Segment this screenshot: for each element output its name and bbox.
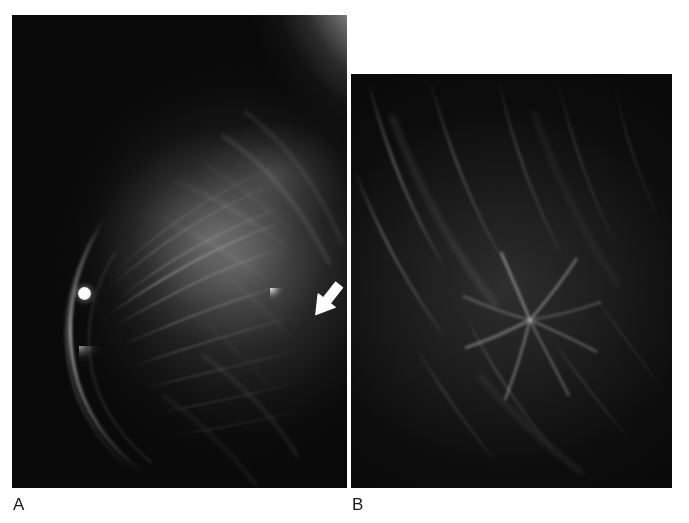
panel-b-description: Magnified spot-compression view of the l… [0, 0, 1, 1]
mammogram-panel-a [12, 15, 347, 488]
magnified-tissue-layer [351, 74, 672, 488]
film-grain-a [12, 15, 347, 488]
mammogram-panel-b [351, 74, 672, 488]
glandular-density-layer [12, 15, 347, 488]
fibroglandular-strands [12, 15, 347, 488]
secondary-density-focus [79, 346, 125, 380]
figure-root: A B Full-field mammogram of the breast, … [0, 0, 689, 523]
breast-parenchyma-layer [12, 15, 347, 488]
skin-line-contour [12, 15, 347, 488]
panel-a-description: Full-field mammogram of the breast, obli… [0, 0, 1, 1]
panel-label-b: B [352, 496, 364, 513]
pectoral-muscle-layer [12, 15, 347, 488]
arrow-icon [308, 277, 347, 321]
panel-label-a: A [13, 496, 25, 513]
film-grain-b [351, 74, 672, 488]
spiculated-lesion-a [270, 288, 304, 318]
magnified-fibrous-bands [351, 74, 672, 488]
circle-marker-icon [78, 287, 91, 300]
